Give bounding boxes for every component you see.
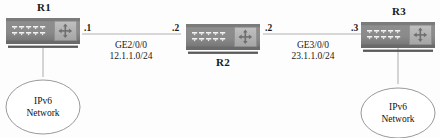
router-r3[interactable] [361,22,435,52]
router-r1[interactable] [6,18,80,48]
topology-svg [0,0,440,138]
link-subnet-r1-r2: 12.1.1.0/24 [109,51,152,63]
link-subnet-r2-r3: 23.1.1.0/24 [291,51,334,63]
cloud-right-label-line1: IPv6 [389,102,407,114]
network-diagram-canvas: R1 R2 R3 .1 .2 .2 .3 GE2/0/0 12.1.1.0/24… [0,0,440,138]
iface-host-r3-ge3: .3 [351,24,358,34]
iface-host-r2-ge3: .2 [265,24,272,34]
router-r2[interactable] [186,24,260,54]
cloud-left-label-line2: Network [26,108,59,120]
cloud-right-label-line2: Network [381,114,414,126]
iface-host-r2-ge2: .2 [172,24,179,34]
router-label-r1: R1 [37,2,51,14]
iface-host-r1-ge2: .1 [84,24,91,34]
router-label-r3: R3 [392,6,406,18]
router-label-r2: R2 [216,57,230,69]
cloud-left-label-line1: IPv6 [34,96,52,108]
